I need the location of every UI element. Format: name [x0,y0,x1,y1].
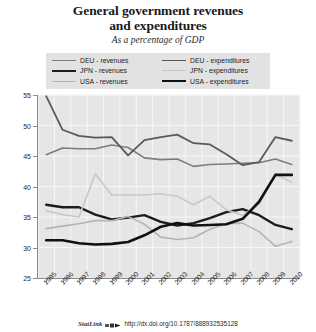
legend-label: JPN - expenditures [190,67,248,74]
chart-legend: DEU - revenuesJPN - revenuesUSA - revenu… [46,53,270,89]
legend-column-left: DEU - revenuesJPN - revenuesUSA - revenu… [52,55,160,87]
page-title: General government revenues and expendit… [0,4,316,33]
statlink-label: StatLink [78,320,102,327]
legend-item: DEU - revenues [52,55,160,66]
legend-label: USA - revenues [80,78,128,85]
source-note: StatLinkhttp://dx.doi.org/10.1787/888932… [0,320,316,327]
chart-subtitle: As a percentage of GDP [0,35,316,45]
plot-area [38,95,300,278]
x-axis: 1995199619971998199920002001200220032004… [38,278,300,312]
legend-swatch-icon [162,60,186,61]
legend-swatch-icon [162,80,186,82]
source-url: http://dx.doi.org/10.1787/888932535128 [124,320,237,327]
legend-column-right: DEU - expendituresJPN - expendituresUSA … [162,55,270,87]
legend-label: JPN - revenues [80,67,127,74]
title-line-1: General government revenues [73,3,243,18]
legend-swatch-icon [52,70,76,72]
statlink-icon [105,322,121,327]
legend-label: DEU - revenues [80,57,128,64]
legend-label: USA - expenditures [190,78,249,85]
y-axis-tick-label: 55 [23,92,31,99]
y-axis-tick-label: 50 [23,122,31,129]
series-line [46,96,292,165]
legend-swatch-icon [162,70,186,71]
legend-item: DEU - expenditures [162,55,270,66]
y-axis-tick-label: 35 [23,214,31,221]
legend-swatch-icon [52,60,76,61]
y-axis-tick-label: 25 [23,275,31,282]
series-line [46,216,292,246]
y-axis-line [37,95,38,278]
legend-label: DEU - expenditures [190,57,249,64]
y-axis: 25303540455055 [0,95,36,278]
legend-item: JPN - revenues [52,66,160,77]
legend-item: JPN - expenditures [162,66,270,77]
legend-item: USA - expenditures [162,76,270,87]
series-line [46,174,292,217]
data-lines [38,95,300,278]
legend-swatch-icon [52,81,76,82]
y-axis-tick-label: 45 [23,153,31,160]
title-line-2: and expenditures [109,18,207,33]
chart-figure: General government revenues and expendit… [0,0,316,332]
y-axis-tick-label: 40 [23,183,31,190]
y-axis-tick-label: 30 [23,244,31,251]
legend-item: USA - revenues [52,76,160,87]
